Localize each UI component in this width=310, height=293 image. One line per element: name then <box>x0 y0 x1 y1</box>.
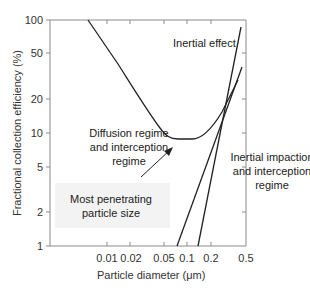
annotation-impaction-line2: and interception <box>233 165 310 177</box>
annotation-mpps-line1: Most penetrating <box>70 193 152 205</box>
annotation-diffusion-line2: and interception <box>90 141 168 153</box>
y-tick-50: 50 <box>31 47 43 59</box>
x-axis-label: Particle diameter (μm) <box>97 269 205 281</box>
y-tick-10: 10 <box>31 127 43 139</box>
annotation-diffusion-line3: regime <box>112 155 146 167</box>
annotation-diffusion-line1: Diffusion regime <box>89 127 168 139</box>
x-tick-0.5: 0.5 <box>238 252 253 264</box>
efficiency-chart: 100 50 20 10 5 2 1 0.01 0.02 0.05 0.1 0.… <box>0 0 310 293</box>
y-tick-1: 1 <box>37 240 43 252</box>
x-tick-0.1: 0.1 <box>179 252 194 264</box>
y-tick-5: 5 <box>37 161 43 173</box>
y-tick-100: 100 <box>25 14 43 26</box>
annotation-inertial-effect: Inertial effect <box>173 37 236 49</box>
x-tick-0.01: 0.01 <box>96 252 117 264</box>
annotation-impaction-line3: regime <box>255 179 289 191</box>
mpps-box <box>55 183 170 228</box>
y-axis-label: Fractional collection efficiency (%) <box>11 50 23 216</box>
annotation-mpps-line2: particle size <box>82 207 140 219</box>
inertial-line-2 <box>198 27 241 246</box>
x-tick-0.05: 0.05 <box>153 252 174 264</box>
x-tick-0.02: 0.02 <box>120 252 141 264</box>
y-tick-2: 2 <box>37 206 43 218</box>
x-tick-0.2: 0.2 <box>203 252 218 264</box>
annotation-impaction-line1: Inertial impaction <box>230 151 310 163</box>
y-tick-20: 20 <box>31 93 43 105</box>
